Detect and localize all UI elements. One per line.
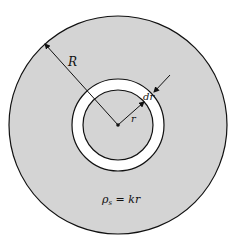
density-formula: ρs = kr: [101, 193, 141, 207]
ring-width-label: dr: [143, 91, 155, 102]
outer-radius-label: R: [67, 55, 77, 69]
disk-diagram: R r dr ρs = kr: [0, 0, 233, 249]
center-point: [116, 123, 120, 127]
